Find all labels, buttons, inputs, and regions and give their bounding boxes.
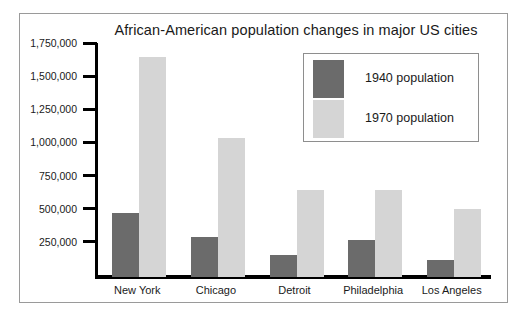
legend-swatch-1970 xyxy=(313,100,344,138)
y-tick-mark xyxy=(83,108,97,111)
legend-swatch-1940 xyxy=(313,60,344,98)
bar-1940 xyxy=(270,255,297,277)
bar-group xyxy=(191,43,245,277)
bar-1970 xyxy=(454,209,481,277)
chart-legend: 1940 population 1970 population xyxy=(303,53,479,142)
y-tick-mark xyxy=(83,42,97,45)
bar-1940 xyxy=(348,240,375,277)
x-category-label: Los Angeles xyxy=(412,284,491,296)
chart-title: African-American population changes in m… xyxy=(96,22,496,38)
x-category-label: Detroit xyxy=(255,284,334,296)
y-tick-mark xyxy=(83,141,97,144)
y-tick-label-wrap: 1,500,000 xyxy=(11,70,77,82)
bar-1970 xyxy=(375,190,402,277)
bar-1970 xyxy=(297,190,324,277)
y-tick-mark xyxy=(83,174,97,177)
bar-group xyxy=(112,43,166,277)
y-tick-label: 250,000 xyxy=(11,236,77,248)
bar-1940 xyxy=(112,213,139,277)
y-tick-mark xyxy=(83,75,97,78)
y-tick-label-wrap: 1,250,000 xyxy=(11,103,77,115)
y-tick-label: 750,000 xyxy=(11,170,77,182)
x-category-label: Chicago xyxy=(177,284,256,296)
bar-1940 xyxy=(427,260,454,277)
y-tick-label-wrap: 500,000 xyxy=(11,203,77,215)
y-tick-label-wrap: 750,000 xyxy=(11,170,77,182)
x-category-label: New York xyxy=(98,284,177,296)
y-tick-label: 1,250,000 xyxy=(11,103,77,115)
legend-label-1940: 1940 population xyxy=(365,71,454,85)
y-tick-mark xyxy=(83,207,97,210)
y-tick-label-wrap: 1,000,000 xyxy=(11,136,77,148)
y-tick-label-wrap: 250,000 xyxy=(11,236,77,248)
y-tick-label: 1,000,000 xyxy=(11,136,77,148)
y-tick-label: 500,000 xyxy=(11,203,77,215)
legend-label-1970: 1970 population xyxy=(365,111,454,125)
bar-1970 xyxy=(139,57,166,277)
bar-1940 xyxy=(191,237,218,277)
y-tick-mark xyxy=(83,240,97,243)
y-tick-label: 1,500,000 xyxy=(11,70,77,82)
y-tick-label-wrap: 1,750,000 xyxy=(11,37,77,49)
bar-1970 xyxy=(218,138,245,277)
x-category-label: Philadelphia xyxy=(334,284,413,296)
y-tick-label: 1,750,000 xyxy=(11,37,77,49)
chart-figure: African-American population changes in m… xyxy=(0,0,527,318)
